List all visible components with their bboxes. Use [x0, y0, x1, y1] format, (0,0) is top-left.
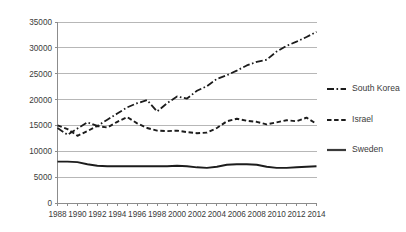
legend-label-south-korea: South Korea: [352, 83, 400, 93]
x-axis-tick-label: 2004: [208, 210, 227, 219]
y-axis-tick-label: 0: [47, 199, 52, 208]
line-chart: 05000100001500020000250003000035000 1988…: [0, 0, 406, 232]
y-axis-tick-label: 20000: [29, 96, 52, 105]
y-axis-tick-label: 5000: [34, 173, 53, 182]
y-axis-tick-label: 15000: [29, 121, 52, 130]
x-axis-tick-label: 2002: [188, 210, 207, 219]
series-line-south-korea: [58, 32, 317, 135]
legend-label-sweden: Sweden: [352, 144, 383, 154]
y-axis-tick-label: 35000: [29, 18, 52, 27]
x-axis-tick-label: 1994: [108, 210, 127, 219]
x-axis-tick-label: 1988: [48, 210, 67, 219]
y-axis-tick-label: 30000: [29, 44, 52, 53]
x-axis-tick-label: 1998: [148, 210, 167, 219]
chart-container: 05000100001500020000250003000035000 1988…: [0, 0, 406, 232]
x-axis-tick-label: 1990: [68, 210, 87, 219]
axis-lines: [58, 22, 317, 204]
x-axis-tick-label: 2008: [248, 210, 267, 219]
y-axis-tick-label: 25000: [29, 70, 52, 79]
x-axis-tick-labels: 1988199019921994199619982000200220042006…: [48, 210, 326, 219]
y-axis-tick-label: 10000: [29, 147, 52, 156]
x-axis-tick-label: 2012: [287, 210, 306, 219]
x-axis-tick-label: 2006: [228, 210, 247, 219]
gridlines: [58, 22, 317, 177]
x-axis-tick-label: 2000: [168, 210, 187, 219]
x-axis-tick-label: 2010: [268, 210, 287, 219]
series-line-sweden: [58, 162, 317, 168]
legend-label-israel: Israel: [352, 114, 373, 124]
y-axis-tick-labels: 05000100001500020000250003000035000: [29, 18, 52, 208]
x-axis-tick-label: 1996: [128, 210, 147, 219]
series-line-israel: [58, 117, 317, 136]
chart-legend: South KoreaIsraelSweden: [327, 83, 400, 154]
x-axis-tick-label: 1992: [88, 210, 107, 219]
x-axis-tick-label: 2014: [307, 210, 326, 219]
